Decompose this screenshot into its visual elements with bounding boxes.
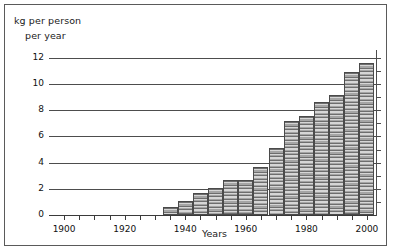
x-tick-1975 <box>291 215 292 220</box>
right-tick-8 <box>376 110 381 111</box>
right-tick-3 <box>376 176 381 177</box>
right-tick-1 <box>376 202 381 203</box>
x-tick-1995 <box>352 215 353 220</box>
y-tick-label: 8 <box>20 104 44 115</box>
x-tick-1970 <box>276 215 277 220</box>
x-tick-1940 <box>185 215 186 220</box>
x-tick-1985 <box>322 215 323 220</box>
right-axis-line <box>376 50 377 216</box>
y-tick-label: 2 <box>20 183 44 194</box>
x-tick-1915 <box>110 215 111 220</box>
x-tick-1955 <box>231 215 232 220</box>
x-axis-title: Years <box>0 228 393 239</box>
bar-1975 <box>284 121 299 215</box>
y-tick-label: 6 <box>20 130 44 141</box>
y-axis-title-line1: kg per person <box>14 15 81 26</box>
y-tick-label: 10 <box>20 78 44 89</box>
bar-1965 <box>253 167 268 216</box>
gridline-10: 10 <box>49 84 376 85</box>
right-tick-6 <box>376 136 381 137</box>
x-axis-title-text: Years <box>202 228 227 239</box>
x-tick-1980 <box>306 215 307 220</box>
bar-1945 <box>193 193 208 215</box>
bar-1990 <box>329 95 344 216</box>
bar-1940 <box>178 201 193 215</box>
x-tick-1910 <box>94 215 95 220</box>
right-tick-9 <box>376 97 381 98</box>
y-axis-title-line2: per year <box>25 30 66 41</box>
bar-1995 <box>344 72 359 215</box>
bar-1935 <box>163 207 178 215</box>
bar-1970 <box>269 148 284 215</box>
x-tick-1930 <box>155 215 156 220</box>
x-tick-1965 <box>261 215 262 220</box>
bar-1955 <box>223 180 238 215</box>
x-tick-1960 <box>246 215 247 220</box>
bar-2000 <box>359 63 374 215</box>
bar-1980 <box>299 116 314 216</box>
x-tick-1925 <box>140 215 141 220</box>
right-tick-10 <box>376 84 381 85</box>
right-tick-7 <box>376 123 381 124</box>
right-tick-2 <box>376 189 381 190</box>
y-tick-label: 12 <box>20 52 44 63</box>
x-tick-1990 <box>337 215 338 220</box>
bar-1950 <box>208 188 223 216</box>
bar-1985 <box>314 102 329 215</box>
bar-1960 <box>238 180 253 215</box>
x-tick-1935 <box>170 215 171 220</box>
right-tick-5 <box>376 150 381 151</box>
right-tick-12 <box>376 58 381 59</box>
gridline-12: 12 <box>49 58 376 59</box>
x-tick-1950 <box>216 215 217 220</box>
x-tick-1905 <box>79 215 80 220</box>
y-tick-label: 0 <box>20 209 44 220</box>
y-tick-label: 4 <box>20 157 44 168</box>
x-tick-1945 <box>200 215 201 220</box>
x-axis-line <box>49 215 376 216</box>
chart-frame: kg per person per year 024681012 1900192… <box>4 4 387 246</box>
x-tick-1920 <box>125 215 126 220</box>
right-tick-4 <box>376 163 381 164</box>
right-tick-11 <box>376 71 381 72</box>
x-tick-2000 <box>367 215 368 220</box>
x-tick-1900 <box>64 215 65 220</box>
plot-area: 024681012 190019201940196019802000 <box>49 50 376 215</box>
